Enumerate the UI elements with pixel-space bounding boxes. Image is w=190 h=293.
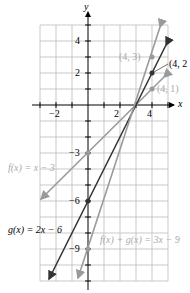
tick-x-4: 4 [147, 108, 152, 119]
tick-x-neg2: −2 [49, 108, 60, 119]
line-f [41, 77, 164, 199]
axes [32, 12, 174, 290]
tick-x-2: 2 [114, 108, 119, 119]
f-label: f(x) = x − 3 [8, 162, 55, 173]
y-axis-label: y [84, 1, 88, 12]
tick-y-neg3: −3 [69, 147, 80, 158]
graph-canvas [0, 0, 190, 293]
tick-y-2: 2 [75, 67, 80, 78]
tick-y-4: 4 [75, 35, 80, 46]
point-label-4-1: (4, 1) [157, 83, 179, 94]
point-label-4-2: (4, 2 [169, 58, 187, 69]
tick-y-neg6: −6 [69, 195, 80, 206]
sum-label: f(x) + g(x) = 3x − 9 [100, 234, 180, 245]
x-axis-label: x [178, 98, 182, 109]
tick-y-neg9: −9 [69, 243, 80, 254]
g-label: g(x) = 2x − 6 [8, 224, 62, 235]
point-label-4-3: (4, 3) [119, 51, 141, 62]
